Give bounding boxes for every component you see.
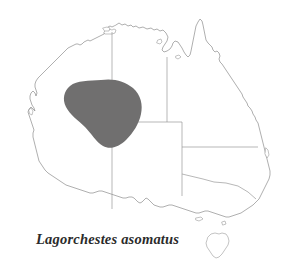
kangaroo-island	[196, 217, 203, 221]
king-island	[222, 221, 226, 225]
species-caption: Lagorchestes asomatus	[36, 231, 179, 248]
australia-map	[0, 0, 283, 270]
tasmania	[206, 233, 229, 258]
melville-island	[103, 27, 110, 31]
mainland-coastline	[28, 19, 270, 217]
distribution-map-figure: Lagorchestes asomatus	[0, 0, 283, 270]
